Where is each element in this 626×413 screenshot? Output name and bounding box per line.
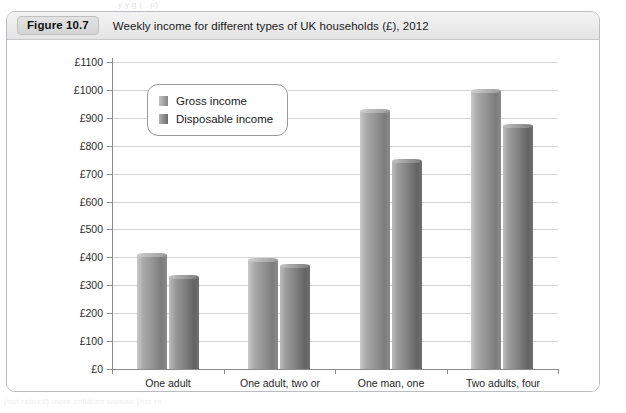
bar-top-cap bbox=[248, 258, 278, 262]
bleed-through-text-bottom: (not retired) more children woman (not r… bbox=[4, 397, 424, 409]
x-axis-category-label: One adult, two or more children bbox=[224, 377, 336, 392]
figure-body: £0£100£200£300£400£500£600£700£800£900£1… bbox=[7, 40, 599, 392]
y-axis-label: £0 bbox=[41, 363, 103, 375]
y-axis-label: £1100 bbox=[41, 56, 103, 68]
bar-gross-income bbox=[137, 255, 167, 369]
bar-chart-plot: £0£100£200£300£400£500£600£700£800£900£1… bbox=[7, 40, 599, 392]
figure-card: Figure 10.7 Weekly income for different … bbox=[6, 11, 600, 392]
bar-top-cap bbox=[471, 89, 501, 93]
y-axis-label: £200 bbox=[41, 307, 103, 319]
bar-top-cap bbox=[360, 109, 390, 113]
bar-gross-income bbox=[471, 91, 501, 369]
legend-label-gross: Gross income bbox=[176, 95, 247, 107]
bar-disposable-income bbox=[169, 277, 199, 369]
x-axis-tick bbox=[112, 369, 113, 374]
x-axis-tick bbox=[558, 369, 559, 374]
bar-top-cap bbox=[169, 275, 199, 279]
bar-disposable-income bbox=[392, 161, 422, 369]
bar-disposable-income bbox=[280, 266, 310, 369]
y-axis-label: £800 bbox=[41, 140, 103, 152]
y-axis-label: £400 bbox=[41, 251, 103, 263]
legend-swatch-icon-gross bbox=[159, 96, 168, 106]
x-axis-tick bbox=[447, 369, 448, 374]
bar-top-cap bbox=[392, 159, 422, 163]
bar-top-cap bbox=[137, 253, 167, 257]
bar-gross-income bbox=[360, 111, 390, 369]
y-axis-label: £900 bbox=[41, 112, 103, 124]
x-axis-tick bbox=[335, 369, 336, 374]
x-axis-category-label: Two adults, four or more children bbox=[447, 377, 559, 392]
y-axis-label: £700 bbox=[41, 168, 103, 180]
bleed-through-text-top: y y g ( , p) bbox=[118, 0, 418, 11]
bar-disposable-income bbox=[503, 126, 533, 369]
figure-header: Figure 10.7 Weekly income for different … bbox=[7, 12, 599, 40]
y-axis-label: £300 bbox=[41, 279, 103, 291]
bar-top-cap bbox=[503, 124, 533, 128]
figure-title: Weekly income for different types of UK … bbox=[113, 20, 429, 32]
y-axis-label: £500 bbox=[41, 223, 103, 235]
bar-gross-income bbox=[248, 260, 278, 369]
x-axis-category-label: One man, one woman (not retired) bbox=[335, 377, 447, 392]
y-axis-label: £600 bbox=[41, 196, 103, 208]
legend-swatch-icon-disposable bbox=[159, 114, 168, 124]
gridline bbox=[112, 62, 558, 63]
x-axis-tick bbox=[224, 369, 225, 374]
legend-label-disposable: Disposable income bbox=[176, 113, 273, 125]
y-axis-line bbox=[112, 58, 113, 370]
chart-legend: Gross income Disposable income bbox=[147, 84, 288, 136]
y-axis-label: £100 bbox=[41, 335, 103, 347]
legend-item-gross-income: Gross income bbox=[159, 92, 273, 110]
figure-number-badge: Figure 10.7 bbox=[17, 16, 99, 36]
y-axis-label: £1000 bbox=[41, 84, 103, 96]
bar-top-cap bbox=[280, 264, 310, 268]
legend-item-disposable-income: Disposable income bbox=[159, 110, 273, 128]
x-axis-category-label: One adult (not retired) bbox=[112, 377, 224, 392]
